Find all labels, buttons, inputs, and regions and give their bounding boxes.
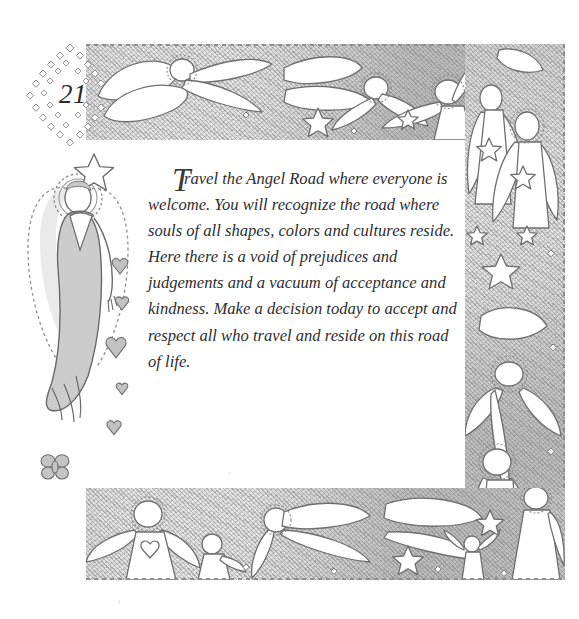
page-number: 21 — [22, 42, 118, 146]
text-panel: ravel the Angel Road where everyone is w… — [146, 150, 464, 485]
hearts-icon — [92, 255, 144, 465]
butterfly-icon — [38, 452, 72, 482]
paper-speck — [118, 600, 120, 604]
page-number-ornament: 21 — [22, 42, 118, 146]
bottom-border-edge — [86, 578, 565, 580]
butterfly-glyph — [38, 452, 72, 482]
body-text: ravel the Angel Road where everyone is w… — [148, 166, 462, 375]
bottom-border-artwork — [86, 488, 565, 580]
paper-speck — [228, 472, 231, 474]
drop-cap: T — [172, 164, 190, 197]
falling-hearts — [92, 255, 144, 465]
bottom-border-angel-procession — [86, 488, 565, 580]
book-page: 21 — [0, 0, 579, 619]
